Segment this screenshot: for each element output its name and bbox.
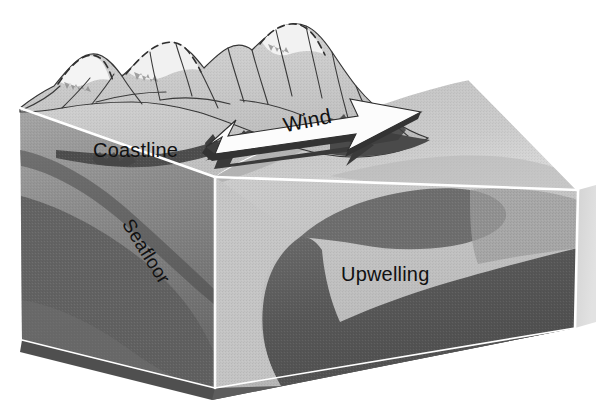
- upwelling-diagram-figure: Coastline Wind Seafloor Upwelling: [0, 0, 597, 412]
- upwelling-block-diagram: [0, 0, 597, 412]
- label-upwelling: Upwelling: [341, 263, 430, 286]
- label-coastline: Coastline: [93, 139, 178, 162]
